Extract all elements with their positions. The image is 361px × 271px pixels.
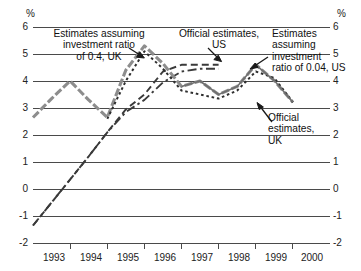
annotation-official-us: Official estimates, US xyxy=(167,28,271,51)
series-line-official-estimates-us xyxy=(33,65,219,226)
x-axis-ticks xyxy=(70,243,293,249)
annotation-estimates-004-us: Estimates assuming investment ratio of 0… xyxy=(272,28,358,74)
annotation-estimates-04-uk: Estimates assuming investment ratio of 0… xyxy=(31,28,167,62)
annotation-official-uk: Official estimates, UK xyxy=(268,112,348,146)
chart-container: % % 6 5 4 3 2 1 0 -1 -2 6 5 4 3 2 1 0 -1… xyxy=(0,0,361,271)
